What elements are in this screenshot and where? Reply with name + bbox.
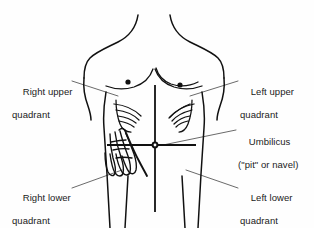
leader-line-left-lower-quadrant [186,170,238,188]
torso-right-arm-edge [84,78,91,120]
label-left-upper-quadrant-line2: quadrant [240,109,294,121]
label-right-lower-quadrant-line2: quadrant [12,215,71,227]
leader-line-umbilicus [163,130,236,145]
label-right-lower-quadrant: Right lower quadrant [12,180,71,228]
label-right-upper-quadrant-line1: Right upper [23,86,73,97]
label-left-lower-quadrant: Left lower quadrant [240,180,292,228]
torso-right-flank [104,92,110,228]
label-left-upper-quadrant-line1: Left upper [251,86,294,97]
label-umbilicus-line1: Umbilicus [249,136,291,147]
torso-inner-left-line [182,176,185,228]
rib-hatching-left [169,100,194,132]
label-umbilicus-line2: ("pit" or navel) [238,159,298,171]
torso-left-arm-edge [217,78,224,120]
abdominal-quadrants-diagram: Right upper quadrant Left upper quadrant… [0,0,314,228]
umbilicus-dot-center [154,144,157,147]
chest-contour-left-secondary [156,68,198,86]
nipple-dot-left [177,82,182,87]
torso-left-flank [198,92,204,228]
torso-inner-right-line [125,176,128,228]
leader-line-right-upper-quadrant [72,81,118,96]
torso-neck-right-shoulder [84,15,138,78]
torso-neck-left-shoulder [170,15,224,78]
label-left-lower-quadrant-line1: Left lower [251,192,293,203]
label-right-lower-quadrant-line1: Right lower [23,192,71,203]
palpating-hand [105,129,147,177]
label-right-upper-quadrant-line2: quadrant [12,109,72,121]
nipple-dot-right [125,79,130,84]
rib-hatching-right [114,100,141,132]
leader-line-left-upper-quadrant [190,81,238,96]
label-left-lower-quadrant-line2: quadrant [240,215,292,227]
label-right-upper-quadrant: Right upper quadrant [12,74,72,143]
chest-contour-right [106,69,153,89]
